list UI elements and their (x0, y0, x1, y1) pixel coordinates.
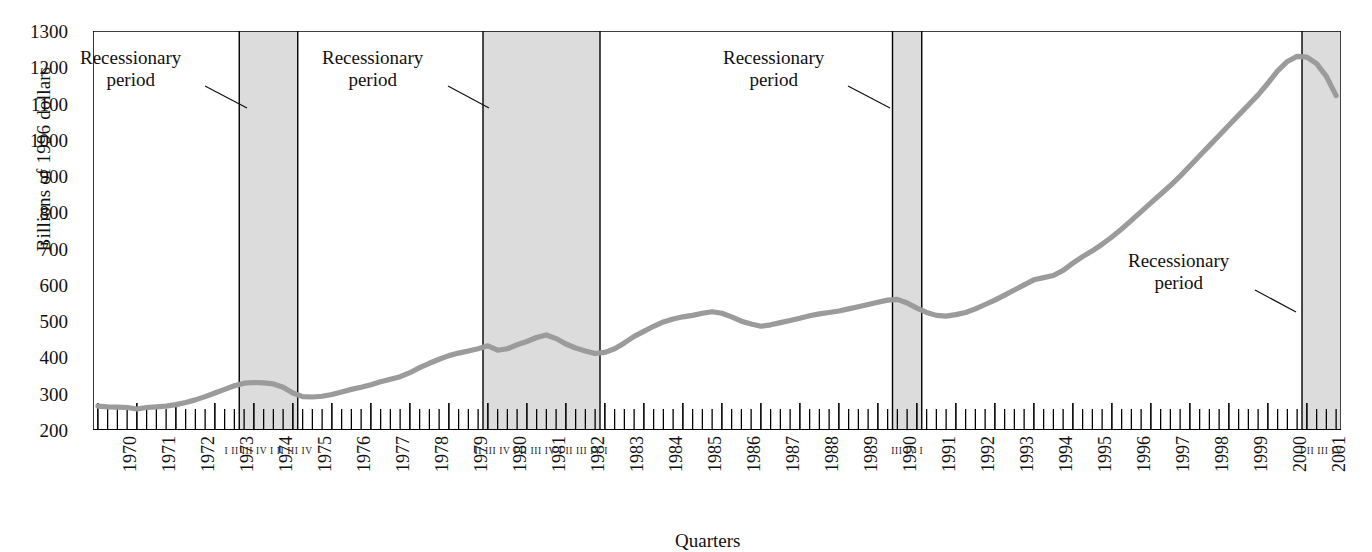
x-tick-label-year: 1998 (1213, 436, 1231, 472)
x-tick-label-year: 1993 (1018, 436, 1036, 472)
x-tick-label-year: 1988 (823, 436, 841, 472)
x-axis-title: Quarters (675, 530, 740, 552)
x-tick-label-year: 1970 (121, 436, 139, 472)
x-tick-label-year: 1997 (1174, 436, 1192, 472)
y-tick-label: 500 (10, 312, 68, 331)
x-tick-label-year: 1989 (862, 436, 880, 472)
x-tick-label-year: 1972 (199, 436, 217, 472)
recession-band (483, 31, 600, 430)
y-tick-label: 600 (10, 276, 68, 295)
x-tick-label-year: 1999 (1252, 436, 1270, 472)
annotation-line-2: period (80, 69, 181, 91)
y-tick-label: 1100 (10, 95, 68, 114)
annotation-line-1: Recessionary (322, 47, 423, 69)
y-tick-label: 200 (10, 421, 68, 440)
y-tick-label: 700 (10, 240, 68, 259)
y-tick-label: 400 (10, 348, 68, 367)
y-tick-label: 1300 (10, 22, 68, 41)
cropped-header-text (0, 0, 1372, 9)
y-tick-label: 800 (10, 203, 68, 222)
y-tick-label: 900 (10, 167, 68, 186)
annotation-line-2: period (1128, 272, 1229, 294)
annotation-line-1: Recessionary (1128, 250, 1229, 272)
annotation-line-2: period (723, 69, 824, 91)
annotation-line-1: Recessionary (723, 47, 824, 69)
y-tick-label: 300 (10, 385, 68, 404)
x-tick-label-year: 1976 (355, 436, 373, 472)
recessionary-period-annotation: Recessionaryperiod (322, 47, 423, 91)
x-tick-label-year: 1996 (1135, 436, 1153, 472)
plot-area (93, 31, 1341, 430)
recessionary-period-annotation: Recessionaryperiod (723, 47, 824, 91)
x-tick-label-year: 1994 (1057, 436, 1075, 472)
x-tick-label-year: 1992 (979, 436, 997, 472)
chart-svg (93, 31, 1341, 430)
y-tick-label: 1200 (10, 58, 68, 77)
x-tick-label-year: 1978 (433, 436, 451, 472)
x-tick-label-year: 1995 (1096, 436, 1114, 472)
x-tick-label-year: 1987 (784, 436, 802, 472)
x-tick-label-year: 1971 (160, 436, 178, 472)
x-tick-label-year: 1986 (745, 436, 763, 472)
annotation-line-1: Recessionary (80, 47, 181, 69)
recession-band (239, 31, 298, 430)
recession-quarter-labels: I II III IV I II III IV (225, 446, 313, 456)
x-tick-label-year: 1983 (628, 436, 646, 472)
x-tick-label-year: 1977 (394, 436, 412, 472)
recession-quarter-labels: I II III IV (1300, 446, 1343, 456)
x-tick-label-year: 1991 (940, 436, 958, 472)
recessionary-period-annotation: Recessionaryperiod (80, 47, 181, 91)
annotation-line-2: period (322, 69, 423, 91)
y-axis-tick-labels: 1300120011001000900800700600500400300200 (6, 0, 68, 545)
recession-band (893, 31, 922, 430)
recession-quarter-labels: III IV I (891, 446, 923, 456)
x-tick-label-year: 1975 (316, 436, 334, 472)
y-tick-label: 1000 (10, 131, 68, 150)
x-tick-label-year: 1984 (667, 436, 685, 472)
recessionary-period-annotation: Recessionaryperiod (1128, 250, 1229, 294)
x-tick-label-year: 1985 (706, 436, 724, 472)
recession-quarter-labels: II III IV I II III IV I II III IV I (475, 446, 609, 456)
